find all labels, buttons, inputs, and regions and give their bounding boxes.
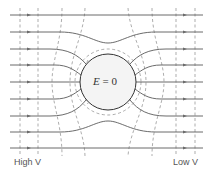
field-diagram: [0, 0, 213, 177]
high-voltage-label: High V: [14, 157, 41, 167]
equals-zero: = 0: [100, 75, 117, 87]
field-zero-label: E = 0: [93, 75, 117, 87]
e-symbol: E: [93, 75, 100, 87]
low-voltage-label: Low V: [173, 157, 198, 167]
